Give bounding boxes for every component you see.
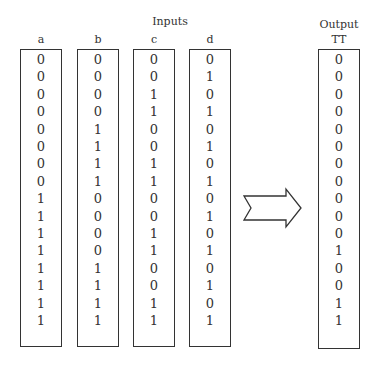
arrow-shape xyxy=(244,189,301,227)
right-arrow-icon xyxy=(0,0,383,367)
